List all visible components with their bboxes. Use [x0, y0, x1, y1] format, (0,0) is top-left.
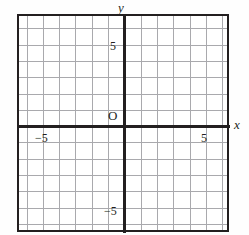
gridline-vertical: [206, 16, 207, 230]
gridline-vertical: [59, 16, 60, 230]
y-axis-label: y: [118, 1, 124, 14]
gridline-vertical: [108, 16, 109, 230]
coordinate-grid-figure: O 5 −5 5 −5 y x: [0, 0, 249, 235]
x-axis-label: x: [234, 118, 240, 131]
y-axis-tick-label-positive: 5: [110, 40, 116, 52]
gridline-vertical: [173, 16, 174, 230]
gridline-vertical: [27, 16, 28, 230]
x-axis-tick-label-positive: 5: [201, 132, 207, 144]
gridline-vertical: [75, 16, 76, 230]
gridline-vertical: [222, 16, 223, 230]
y-axis-tick-label-negative: −5: [104, 205, 117, 217]
x-axis-line: [17, 125, 230, 128]
gridline-vertical: [92, 16, 93, 230]
gridline-vertical: [141, 16, 142, 230]
x-axis-tick-label-negative: −5: [35, 132, 48, 144]
origin-label: O: [108, 109, 117, 122]
gridline-vertical: [43, 16, 44, 230]
y-axis-line: [123, 14, 126, 233]
plot-frame: O 5 −5 5 −5: [17, 14, 229, 232]
gridline-vertical: [190, 16, 191, 230]
gridline-vertical: [157, 16, 158, 230]
